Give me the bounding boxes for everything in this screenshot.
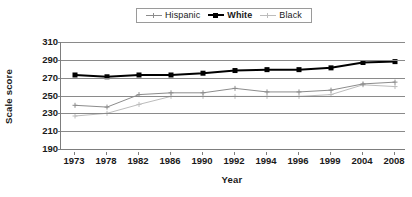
data-point-hispanic [393, 80, 398, 85]
data-point-white [73, 72, 78, 77]
y-tick-label: 270 [32, 73, 58, 83]
legend-marker-black-icon [260, 11, 276, 20]
gridline [61, 42, 405, 43]
x-tick-label: 1986 [159, 156, 180, 166]
x-tick-label: 1990 [191, 156, 212, 166]
x-tick-mark [202, 152, 203, 155]
x-tick-label: 1996 [287, 156, 308, 166]
data-point-white [169, 72, 174, 77]
chart-legend: Hispanic White Black [136, 8, 312, 23]
gridline [61, 60, 405, 61]
x-tick-label: 1978 [95, 156, 116, 166]
legend-marker-white-icon [208, 11, 224, 20]
data-point-hispanic [233, 86, 238, 91]
data-point-hispanic [201, 90, 206, 95]
y-axis-ticks: 190210230250270290310 [28, 42, 58, 149]
data-point-black [73, 114, 78, 119]
data-point-hispanic [297, 89, 302, 94]
data-point-white [265, 67, 270, 72]
data-point-black [393, 84, 398, 89]
data-point-white [201, 71, 206, 76]
gridline [61, 96, 405, 97]
x-tick-label: 2008 [383, 156, 404, 166]
gridline [61, 78, 405, 79]
plot-area [60, 42, 405, 150]
y-tick-label: 250 [32, 91, 58, 101]
y-tick-label: 190 [32, 144, 58, 154]
x-tick-mark [138, 152, 139, 155]
x-tick-label: 1982 [127, 156, 148, 166]
x-tick-mark [330, 152, 331, 155]
data-point-hispanic [73, 103, 78, 108]
y-tick-label: 230 [32, 108, 58, 118]
gridline [61, 131, 405, 132]
y-tick-label: 290 [32, 55, 58, 65]
y-tick-label: 310 [32, 37, 58, 47]
legend-item-white: White [208, 11, 252, 20]
x-axis-title: Year [60, 174, 404, 185]
x-tick-mark [394, 152, 395, 155]
legend-label-hispanic: Hispanic [165, 11, 200, 20]
x-tick-label: 1999 [319, 156, 340, 166]
data-point-hispanic [105, 105, 110, 110]
data-point-white [329, 65, 334, 70]
legend-item-hispanic: Hispanic [146, 11, 200, 20]
x-tick-mark [298, 152, 299, 155]
data-point-hispanic [265, 89, 270, 94]
legend-label-white: White [227, 11, 252, 20]
data-point-white [137, 72, 142, 77]
data-point-hispanic [169, 90, 174, 95]
x-tick-mark [170, 152, 171, 155]
legend-marker-hispanic-icon [146, 11, 162, 20]
gridline [61, 113, 405, 114]
x-axis-ticks: 1973197819821986199019921994199619992004… [60, 152, 404, 166]
x-tick-label: 1973 [63, 156, 84, 166]
chart-figure: Hispanic White Black Scale score 1902102… [0, 0, 412, 197]
y-axis-title-text: Scale score [4, 68, 15, 123]
x-tick-mark [234, 152, 235, 155]
y-axis-title: Scale score [2, 58, 16, 134]
x-tick-mark [74, 152, 75, 155]
x-tick-mark [362, 152, 363, 155]
data-point-white [297, 67, 302, 72]
x-tick-label: 2004 [351, 156, 372, 166]
x-tick-mark [106, 152, 107, 155]
data-point-hispanic [329, 88, 334, 93]
data-point-black [137, 102, 142, 107]
legend-item-black: Black [260, 11, 302, 20]
x-tick-label: 1994 [255, 156, 276, 166]
x-tick-label: 1992 [223, 156, 244, 166]
y-tick-label: 210 [32, 126, 58, 136]
data-point-white [233, 68, 238, 73]
x-tick-mark [266, 152, 267, 155]
legend-label-black: Black [279, 11, 302, 20]
